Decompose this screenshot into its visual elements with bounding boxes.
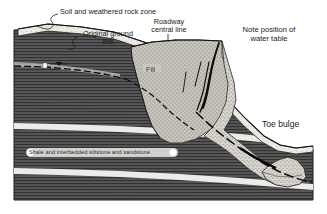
label-soil-weathered-rock-zone: Soil and weathered rock zone	[60, 8, 156, 16]
label-toe-bulge: Toe bulge	[262, 120, 299, 130]
bedrock-label-dot-end	[170, 149, 177, 156]
label-bedrock-unit: Shale and interbedded siltstone and sand…	[29, 149, 150, 155]
label-fill: Fill	[146, 66, 155, 74]
marker-patch	[43, 63, 47, 68]
label-original-ground-line: Original ground line	[79, 30, 137, 46]
label-water-table-note: Note position of water table	[226, 26, 312, 43]
cross-section-figure: Soil and weathered rock zone Roadway cen…	[0, 0, 327, 214]
label-roadway-central-line: Roadway central line	[139, 18, 199, 34]
